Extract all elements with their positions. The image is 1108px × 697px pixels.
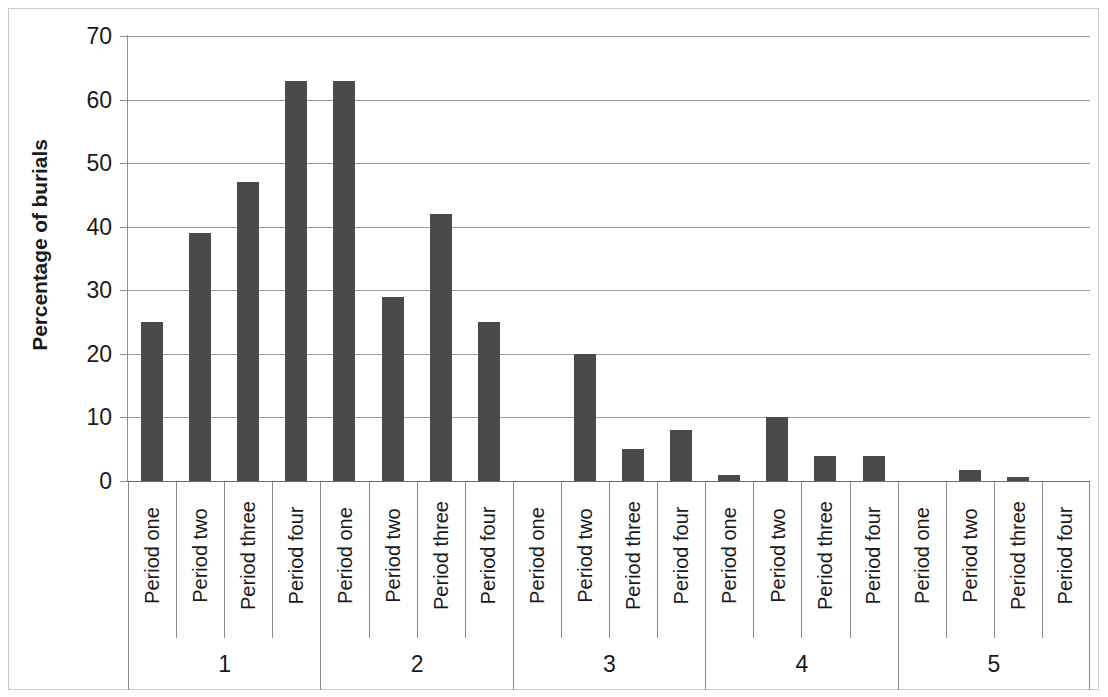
bar [478, 322, 500, 481]
y-axis-tick-label: 40 [52, 213, 112, 240]
x-axis-category-cell: Period four [1042, 482, 1090, 638]
x-axis-group-label: 4 [795, 651, 808, 678]
x-axis-group-label: 1 [218, 651, 231, 678]
x-axis-category-label: Period four [1054, 507, 1077, 605]
x-axis-category-label: Period two [189, 508, 212, 603]
x-axis-category-label: Period three [622, 501, 645, 610]
x-axis-category-cell: Period four [657, 482, 705, 638]
x-axis-category-cell: Period four [272, 482, 320, 638]
x-axis-category-label: Period two [382, 508, 405, 603]
x-axis-category-cell: Period four [465, 482, 513, 638]
y-axis-tick-label: 20 [52, 340, 112, 367]
x-axis-category-label: Period four [670, 507, 693, 605]
x-axis-category-cell: Period one [898, 482, 946, 638]
x-axis-group-labels: 12345 [128, 638, 1090, 690]
x-axis-category-label: Period three [814, 501, 837, 610]
bar [382, 297, 404, 481]
bar [237, 182, 259, 481]
bar [333, 81, 355, 482]
x-axis-category-cell: Period three [224, 482, 272, 638]
y-axis-tick-label: 70 [52, 23, 112, 50]
bar [430, 214, 452, 481]
x-axis-category-cell: Period three [609, 482, 657, 638]
x-axis-group-cell: 5 [898, 638, 1090, 690]
x-axis-category-labels: Period onePeriod twoPeriod threePeriod f… [128, 482, 1090, 638]
bar [285, 81, 307, 482]
x-axis-category-cell: Period three [994, 482, 1042, 638]
y-axis-tick-label: 60 [52, 86, 112, 113]
x-axis-category-label: Period four [863, 507, 886, 605]
bar-series [128, 36, 1090, 481]
x-axis-category-cell: Period two [176, 482, 224, 638]
x-axis-group-label: 2 [411, 651, 424, 678]
x-axis-category-label: Period three [1007, 501, 1030, 610]
x-axis-category-cell: Period one [513, 482, 561, 638]
x-axis-category-cell: Period two [369, 482, 417, 638]
x-axis-category-label: Period one [911, 507, 934, 604]
bar [718, 475, 740, 481]
x-axis-category-cell: Period one [705, 482, 753, 638]
y-axis-tick-label: 30 [52, 277, 112, 304]
x-axis-category-label: Period four [478, 507, 501, 605]
bar [814, 456, 836, 481]
x-axis-category-label: Period two [574, 508, 597, 603]
x-axis-category-cell: Period two [561, 482, 609, 638]
bar [1007, 477, 1029, 481]
x-axis-category-label: Period one [333, 507, 356, 604]
y-axis-tick-label: 0 [52, 468, 112, 495]
x-axis-category-label: Period three [237, 501, 260, 610]
x-axis-category-cell: Period one [320, 482, 368, 638]
x-axis-category-label: Period three [430, 501, 453, 610]
x-axis-category-label: Period two [766, 508, 789, 603]
x-axis-category-cell: Period two [946, 482, 994, 638]
x-axis-group-cell: 1 [128, 638, 320, 690]
x-axis-category-label: Period one [141, 507, 164, 604]
bar [622, 449, 644, 481]
x-axis-category-cell: Period one [128, 482, 176, 638]
bar [189, 233, 211, 481]
x-axis-category-label: Period one [526, 507, 549, 604]
x-axis-group-cell: 2 [320, 638, 512, 690]
x-axis-group-label: 5 [987, 651, 1000, 678]
x-axis-category-label: Period one [718, 507, 741, 604]
y-axis-tick-label: 50 [52, 150, 112, 177]
bar [959, 470, 981, 481]
y-axis-title-text: Percentage of burials [28, 139, 52, 350]
bar [670, 430, 692, 481]
bar [141, 322, 163, 481]
x-axis-category-cell: Period four [850, 482, 898, 638]
y-axis-tick-label: 10 [52, 404, 112, 431]
chart-figure: Percentage of burials 010203040506070 Pe… [0, 0, 1108, 697]
x-axis-category-cell: Period two [753, 482, 801, 638]
x-axis-category-label: Period two [959, 508, 982, 603]
x-axis-category-cell: Period three [801, 482, 849, 638]
x-axis-group-cell: 3 [513, 638, 705, 690]
x-axis-category-cell: Period three [417, 482, 465, 638]
bar [766, 417, 788, 481]
x-axis-group-label: 3 [603, 651, 616, 678]
x-axis-group-cell: 4 [705, 638, 897, 690]
bar [574, 354, 596, 481]
y-axis-tick-labels: 010203040506070 [50, 36, 112, 481]
x-axis-category-label: Period four [285, 507, 308, 605]
bar [863, 456, 885, 481]
